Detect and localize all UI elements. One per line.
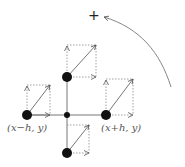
- stencil-diagram: [0, 0, 185, 167]
- bottom-vector-arrow: [67, 125, 89, 153]
- left-vector-arrow: [27, 85, 50, 115]
- node-right: [101, 110, 111, 120]
- node-bottom: [62, 148, 72, 158]
- right-vector-arrow: [106, 79, 133, 115]
- node-left: [22, 110, 32, 120]
- rotation-arc-arrow: [104, 17, 171, 87]
- label-right-node: (x+h, y): [101, 122, 141, 133]
- node-center: [64, 112, 70, 118]
- label-left-node: (x−h, y): [7, 122, 47, 133]
- top-vector-arrow: [67, 45, 96, 77]
- plus-symbol: +: [88, 8, 100, 22]
- node-top: [62, 72, 72, 82]
